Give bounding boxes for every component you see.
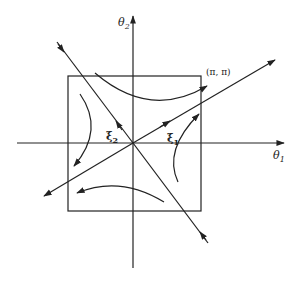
trajectory-right xyxy=(174,114,199,182)
xi2-arrow-bottom-icon xyxy=(200,232,206,240)
xi1-arrow-icon xyxy=(160,121,170,127)
xi1-line-upper xyxy=(133,60,275,143)
trajectory-top xyxy=(95,73,207,100)
xi2-arrow-top-icon xyxy=(58,44,64,52)
phase-portrait-diagram: θ2 θ1 (π, π) ξ1 ξ2 xyxy=(0,0,298,281)
corner-label: (π, π) xyxy=(206,67,231,77)
xi2-line-lower xyxy=(133,143,208,243)
trajectory-bottom xyxy=(77,186,164,202)
theta1-label: θ1 xyxy=(273,149,285,164)
xi2-arrow-mid-icon xyxy=(116,121,122,130)
xi2-label: ξ2 xyxy=(106,130,118,145)
xi1-line-lower xyxy=(44,143,133,196)
trajectory-left xyxy=(74,94,91,166)
xi1-label: ξ1 xyxy=(167,132,179,147)
theta2-label: θ2 xyxy=(118,16,130,31)
